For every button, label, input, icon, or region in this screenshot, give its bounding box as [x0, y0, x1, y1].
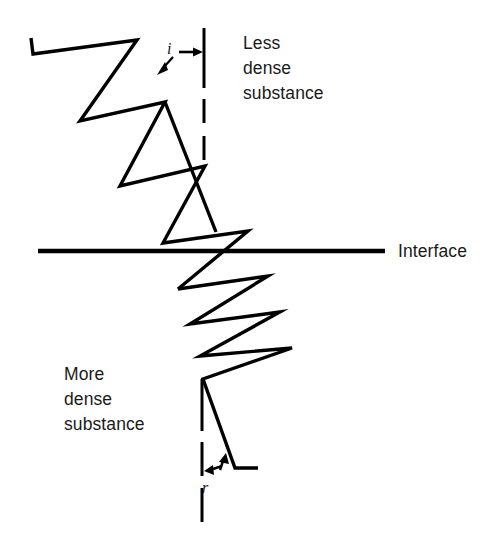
angle-of-refraction-arrow-left — [204, 465, 222, 475]
angle-of-incidence-arrow-left — [157, 57, 173, 75]
refraction-diagram-figure: Less dense substance More dense substanc… — [0, 0, 496, 546]
angle-of-incidence-arrow-right — [179, 48, 203, 57]
more-dense-substance-label: More dense substance — [64, 362, 145, 437]
angle-of-incidence-label: i — [167, 41, 171, 57]
interface-label: Interface — [398, 239, 467, 264]
refracted-wave-path — [178, 276, 292, 468]
less-dense-substance-label: Less dense substance — [243, 31, 324, 106]
incident-ray-line — [165, 102, 216, 232]
angle-of-refraction-arrow-up — [219, 453, 229, 470]
angle-of-refraction-label: r — [202, 480, 208, 496]
